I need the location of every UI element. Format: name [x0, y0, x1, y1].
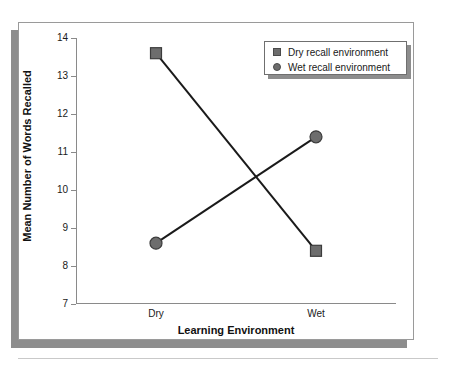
x-axis-line — [76, 303, 396, 304]
legend-item-wet[interactable]: Wet recall environment — [273, 60, 406, 74]
x-axis-tick-label: Dry — [116, 308, 196, 319]
y-axis-tick — [71, 152, 76, 153]
x-axis-title: Learning Environment — [76, 324, 396, 336]
y-axis-tick — [71, 304, 76, 305]
y-axis-tick-label: 10 — [10, 185, 68, 195]
y-axis-tick-label: 12 — [10, 109, 68, 119]
page-bottom-rule — [18, 358, 438, 359]
y-axis-title: Mean Number of Words Recalled — [21, 41, 33, 271]
legend-item-label: Dry recall environment — [288, 47, 388, 58]
y-axis-tick — [71, 190, 76, 191]
y-axis-tick-label: 11 — [10, 147, 68, 157]
y-axis-tick — [71, 228, 76, 229]
y-axis-line — [76, 38, 77, 304]
y-axis-tick — [71, 114, 76, 115]
y-axis-tick — [71, 38, 76, 39]
y-axis-tick-label: 9 — [10, 223, 68, 233]
x-axis-tick-label: Wet — [276, 308, 356, 319]
y-axis-tick — [71, 76, 76, 77]
circle-marker-icon — [273, 63, 281, 71]
square-marker-icon — [273, 48, 281, 56]
legend-item-dry[interactable]: Dry recall environment — [273, 45, 406, 59]
chart-legend: Dry recall environment Wet recall enviro… — [264, 41, 407, 75]
y-axis-tick-label: 7 — [10, 299, 68, 309]
y-axis-tick-label: 14 — [10, 33, 68, 43]
y-axis-tick-label: 13 — [10, 71, 68, 81]
y-axis-tick — [71, 266, 76, 267]
legend-item-label: Wet recall environment — [288, 62, 390, 73]
y-axis-tick-labels: 7891011121314 — [8, 0, 68, 365]
y-axis-tick-label: 8 — [10, 261, 68, 271]
